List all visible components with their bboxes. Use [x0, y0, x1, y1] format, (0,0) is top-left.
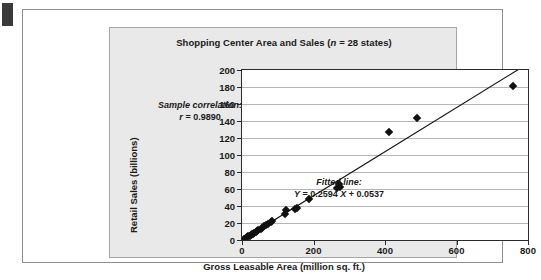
- fitted-line-label: Fitted line:: [316, 177, 362, 187]
- fitted-line-equation: Y = 0.2594 X + 0.0537: [294, 188, 384, 200]
- x-tick-label: 200: [294, 245, 334, 256]
- correlation-number: = 0.9890: [183, 112, 221, 122]
- chart-title-pre: Shopping Center Area and Sales (: [176, 37, 330, 48]
- y-tick-label: 120: [195, 133, 235, 144]
- y-tick-label: 60: [195, 184, 235, 195]
- annotation-fitted-line: Fitted line: Y = 0.2594 X + 0.0537: [294, 176, 384, 200]
- figure-outer-frame: Shopping Center Area and Sales (n = 28 s…: [22, 9, 503, 263]
- x-tick-mark: [385, 241, 386, 245]
- x-axis-title: Gross Leasable Area (million sq. ft.): [110, 261, 458, 272]
- x-tick-mark: [457, 241, 458, 245]
- correlation-label: Sample correlation:: [158, 100, 242, 110]
- y-tick-label: 100: [195, 150, 235, 161]
- equation-end: + 0.0537: [346, 189, 384, 199]
- y-tick-label: 180: [195, 82, 235, 93]
- plot-inner: [242, 70, 528, 240]
- x-tick-label: 0: [222, 245, 262, 256]
- chart-title-post: = 28 states): [336, 37, 391, 48]
- page-edge-tab: [2, 3, 13, 26]
- y-tick-label: 80: [195, 167, 235, 178]
- x-tick-mark: [314, 241, 315, 245]
- annotation-sample-correlation: Sample correlation: r = 0.9890: [158, 99, 242, 123]
- x-tick-label: 400: [365, 245, 405, 256]
- y-tick-label: 20: [195, 218, 235, 229]
- y-tick-label: 200: [195, 65, 235, 76]
- chart-title: Shopping Center Area and Sales (n = 28 s…: [110, 37, 458, 48]
- equation-mid: = 0.2594: [300, 189, 340, 199]
- x-tick-mark: [528, 241, 529, 245]
- y-tick-label: 40: [195, 201, 235, 212]
- x-tick-label: 600: [437, 245, 477, 256]
- correlation-value: r = 0.9890: [158, 111, 242, 123]
- x-tick-label: 800: [508, 245, 541, 256]
- y-tick-label: 0: [195, 235, 235, 246]
- y-axis-title: Retail Sales (billions): [128, 137, 139, 233]
- plot-area: [241, 69, 529, 241]
- chart-panel: Shopping Center Area and Sales (n = 28 s…: [109, 27, 457, 258]
- x-tick-mark: [242, 241, 243, 245]
